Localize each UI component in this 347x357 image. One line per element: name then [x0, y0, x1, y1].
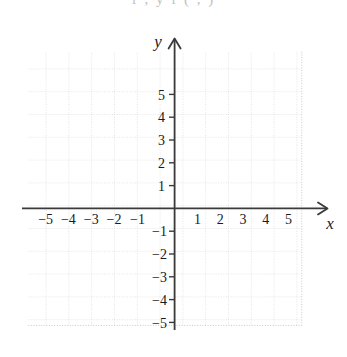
- y-tick-label-1: 1: [158, 179, 165, 194]
- y-tick-label-minus-3: −3: [152, 270, 167, 285]
- x-tick-label-minus-4: −4: [61, 212, 76, 227]
- graph-page: f , y f ( , ): [0, 0, 347, 357]
- y-tick-label-minus-1: −1: [152, 224, 167, 239]
- x-tick-label-minus-5: −5: [38, 212, 53, 227]
- x-tick-label-minus-3: −3: [84, 212, 99, 227]
- x-axis-label: x: [325, 214, 334, 233]
- y-tick-label-2: 2: [158, 156, 165, 171]
- x-tick-label-5: 5: [285, 212, 292, 227]
- y-axis-label: y: [152, 32, 162, 51]
- y-tick-label-minus-5: −5: [152, 316, 167, 331]
- x-tick-label-2: 2: [217, 212, 224, 227]
- coordinate-plane-svg: 5 4 3 2 1 −1 −2 −3 −4 −5 −5 −4 −3 −2 −1: [0, 0, 347, 357]
- y-tick-label-3: 3: [158, 133, 165, 148]
- x-tick-label-4: 4: [262, 212, 269, 227]
- y-tick-label-5: 5: [158, 88, 165, 103]
- x-tick-label-minus-2: −2: [107, 212, 122, 227]
- y-tick-label-4: 4: [158, 110, 165, 125]
- y-tick-label-minus-4: −4: [152, 293, 167, 308]
- x-tick-label-3: 3: [240, 212, 247, 227]
- x-tick-label-minus-1: −1: [130, 212, 145, 227]
- y-tick-label-minus-2: −2: [152, 247, 167, 262]
- coordinate-plane-figure: 5 4 3 2 1 −1 −2 −3 −4 −5 −5 −4 −3 −2 −1: [0, 0, 347, 357]
- x-tick-label-1: 1: [194, 212, 201, 227]
